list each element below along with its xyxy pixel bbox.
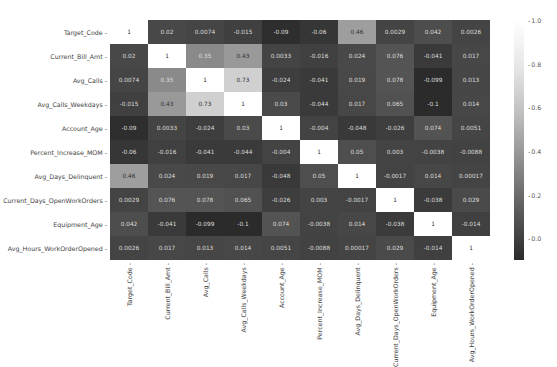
heatmap-cell: -0.099: [414, 68, 452, 92]
heatmap-cell: -0.0038: [300, 212, 338, 236]
heatmap-cell: -0.014: [414, 236, 452, 260]
heatmap-cell: 1: [224, 92, 262, 116]
heatmap-cell: -0.09: [262, 20, 300, 44]
heatmap-cell: -0.06: [300, 20, 338, 44]
heatmap-cell: 0.014: [224, 236, 262, 260]
heatmap-cell: 0.029: [376, 236, 414, 260]
heatmap-cell: 0.35: [148, 68, 186, 92]
heatmap-cell: 0.076: [148, 188, 186, 212]
heatmap-cell: 0.73: [186, 92, 224, 116]
heatmap-cell: -0.0017: [338, 188, 376, 212]
heatmap-cell: 0.43: [148, 92, 186, 116]
heatmap-cell: -0.048: [262, 164, 300, 188]
heatmap-cell: -0.1: [414, 92, 452, 116]
heatmap-cell: 0.013: [452, 68, 490, 92]
heatmap-cell: 0.0051: [452, 116, 490, 140]
x-tick-label: Avg_Hours_WorkOrderOpened -: [468, 263, 475, 362]
heatmap-cell: -0.09: [110, 116, 148, 140]
heatmap-cell: 0.013: [186, 236, 224, 260]
heatmap-cell: -0.1: [224, 212, 262, 236]
x-tick-label: Avg_Calls -: [202, 263, 209, 297]
heatmap-cell: 0.042: [414, 20, 452, 44]
heatmap-cell: 0.078: [376, 68, 414, 92]
heatmap-cell: 0.014: [452, 92, 490, 116]
heatmap-cell: 0.73: [224, 68, 262, 92]
colorbar-tick-label: 0.8: [528, 60, 541, 67]
heatmap-cell: -0.004: [262, 140, 300, 164]
x-tick-label: Avg_Days_Delinquent -: [354, 263, 361, 335]
heatmap-cell: 0.029: [452, 188, 490, 212]
y-tick-label: Account_Age -: [62, 125, 107, 132]
heatmap-cell: 0.065: [376, 92, 414, 116]
heatmap-cell: -0.099: [186, 212, 224, 236]
heatmap-cell: -0.041: [148, 212, 186, 236]
heatmap-cell: -0.016: [148, 140, 186, 164]
colorbar-tick-label: 0.6: [528, 104, 541, 111]
x-tick-label: Current_Bill_Amt -: [164, 263, 171, 320]
y-tick-label: Avg_Hours_WorkOrderOpened -: [8, 245, 107, 252]
heatmap-cell: 0.074: [414, 116, 452, 140]
y-tick-label: Percent_Increase_MOM -: [30, 149, 107, 156]
heatmap-cell: 0.074: [262, 212, 300, 236]
heatmap-cell: 0.0051: [262, 236, 300, 260]
heatmap-cell: -0.044: [300, 92, 338, 116]
y-tick-label: Equipment_Age -: [53, 221, 107, 228]
heatmap-cell: 0.003: [376, 140, 414, 164]
heatmap-cell: 0.03: [262, 92, 300, 116]
heatmap-cell: 0.017: [338, 92, 376, 116]
heatmap-cell: 0.017: [148, 236, 186, 260]
heatmap-cell: 1: [338, 164, 376, 188]
heatmap-cell: 0.019: [186, 164, 224, 188]
heatmap-cell: -0.038: [376, 212, 414, 236]
heatmap-cell: 0.46: [338, 20, 376, 44]
heatmap-cell: 0.00017: [452, 164, 490, 188]
colorbar-tick-label: 0.2: [528, 191, 541, 198]
heatmap-cell: -0.0088: [300, 236, 338, 260]
heatmap-cell: 0.019: [338, 68, 376, 92]
heatmap-cell: -0.06: [110, 140, 148, 164]
colorbar-tick-label: 1.0: [528, 17, 541, 24]
heatmap-cell: -0.048: [338, 116, 376, 140]
heatmap-cell: 0.076: [376, 44, 414, 68]
heatmap-cell: 0.017: [452, 44, 490, 68]
heatmap-cell: 0.43: [224, 44, 262, 68]
heatmap-cell: 0.078: [186, 188, 224, 212]
x-tick-label: Target_Code -: [126, 263, 133, 306]
heatmap-cell: -0.015: [110, 92, 148, 116]
heatmap-cell: 0.065: [224, 188, 262, 212]
heatmap-cell: 0.024: [338, 44, 376, 68]
heatmap-cell: 0.024: [148, 164, 186, 188]
x-tick-label: Current_Days_OpenWorkOrders -: [392, 263, 399, 367]
heatmap-cell: 0.00017: [338, 236, 376, 260]
heatmap-cell: 0.0029: [376, 20, 414, 44]
heatmap-cell: -0.014: [452, 212, 490, 236]
heatmap-cell: 0.042: [110, 212, 148, 236]
heatmap-cell: 0.35: [186, 44, 224, 68]
y-tick-label: Avg_Calls -: [73, 77, 107, 84]
heatmap-cell: -0.0038: [414, 140, 452, 164]
heatmap-cell: -0.024: [262, 68, 300, 92]
heatmap-cell: -0.038: [414, 188, 452, 212]
x-tick-label: Avg_Calls_Weekdays -: [240, 263, 247, 332]
heatmap-cell: -0.0088: [452, 140, 490, 164]
heatmap-cell: 0.05: [300, 164, 338, 188]
heatmap-cell: 0.0029: [110, 188, 148, 212]
heatmap-cell: 0.0026: [452, 20, 490, 44]
heatmap-cell: -0.044: [224, 140, 262, 164]
heatmap-cell: 1: [186, 68, 224, 92]
heatmap-cell: 0.0074: [186, 20, 224, 44]
heatmap-cell: 0.03: [224, 116, 262, 140]
y-tick-label: Current_Bill_Amt -: [50, 53, 107, 60]
heatmap-cell: 0.0074: [110, 68, 148, 92]
x-tick-label: Account_Age -: [278, 263, 285, 308]
heatmap-cell: 1: [110, 20, 148, 44]
heatmap-cell: 1: [300, 140, 338, 164]
y-tick-label: Avg_Calls_Weekdays -: [38, 101, 107, 108]
x-tick-label: Percent_Increase_MOM -: [316, 263, 323, 340]
heatmap-cell: 0.014: [414, 164, 452, 188]
heatmap-cell: 1: [376, 188, 414, 212]
colorbar-tick-label: 0.4: [528, 147, 541, 154]
heatmap-cell: -0.024: [186, 116, 224, 140]
heatmap-cell: -0.026: [376, 116, 414, 140]
